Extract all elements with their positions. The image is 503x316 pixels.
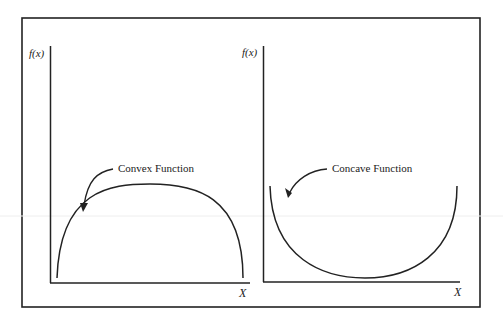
- concave-curve: [270, 186, 457, 278]
- arrow-head-icon: [80, 203, 88, 212]
- arrow-line: [290, 169, 327, 192]
- y-axis-label: f(x): [29, 47, 45, 60]
- curve-label: Concave Function: [332, 162, 413, 174]
- x-axis-label: X: [238, 286, 247, 300]
- panel-concave: f(x) X Concave Function: [242, 46, 462, 299]
- panel-convex: f(x) X Convex Function: [29, 46, 250, 300]
- y-axis-label: f(x): [242, 46, 258, 59]
- x-axis-label: X: [453, 285, 462, 299]
- convex-concave-diagram: f(x) X Convex Function f(x) X Concave Fu…: [0, 0, 503, 316]
- curve-label: Convex Function: [118, 162, 195, 174]
